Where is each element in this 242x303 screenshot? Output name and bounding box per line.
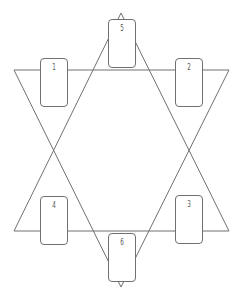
card-1-label: 1: [45, 64, 63, 72]
card-5[interactable]: 5: [108, 19, 136, 68]
card-2[interactable]: 2: [175, 58, 203, 107]
card-3[interactable]: 3: [175, 195, 203, 244]
card-2-label: 2: [180, 64, 198, 72]
card-4[interactable]: 4: [40, 196, 68, 245]
card-1[interactable]: 1: [40, 58, 68, 107]
card-6[interactable]: 6: [108, 233, 136, 282]
card-5-label: 5: [113, 25, 131, 33]
card-4-label: 4: [45, 202, 63, 210]
card-3-label: 3: [180, 201, 198, 209]
card-6-label: 6: [113, 239, 131, 247]
